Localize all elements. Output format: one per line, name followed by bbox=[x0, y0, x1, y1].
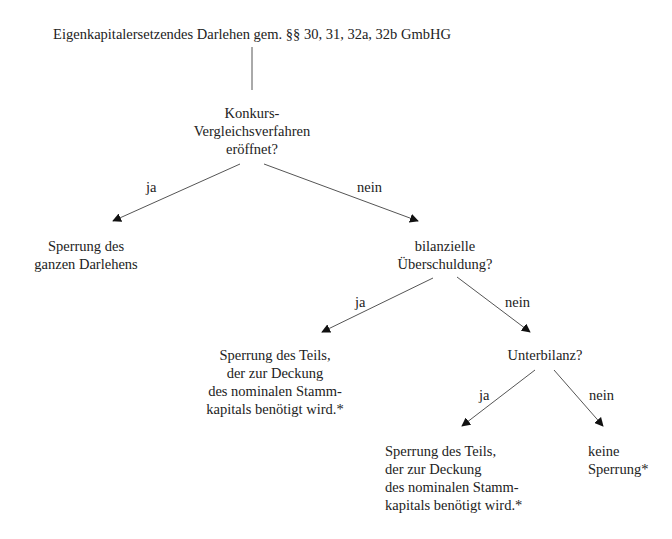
edge-label-ja: ja bbox=[146, 178, 156, 196]
question-unterbilanz: Unterbilanz? bbox=[508, 346, 583, 364]
result-sperrung-teil-1: Sperrung des Teils, der zur Deckung des … bbox=[206, 346, 343, 418]
edge-label-nein: nein bbox=[505, 293, 530, 311]
edge-label-nein: nein bbox=[589, 386, 614, 404]
root-node: Eigenkapitalersetzendes Darlehen gem. §§… bbox=[53, 25, 451, 43]
result-sperrung-ganz: Sperrung des ganzen Darlehens bbox=[34, 237, 137, 273]
edge-q1-r1 bbox=[113, 164, 240, 221]
root-label: Eigenkapitalersetzendes Darlehen gem. §§… bbox=[53, 26, 451, 42]
edge-q2-r2 bbox=[322, 278, 433, 332]
edge-q1-q2 bbox=[264, 164, 418, 221]
result-keine-sperrung: keine Sperrung* bbox=[588, 442, 648, 478]
edge-label-nein: nein bbox=[357, 178, 382, 196]
question-konkurs: Konkurs- Vergleichsverfahren eröffnet? bbox=[194, 104, 310, 158]
question-ueberschuldung: bilanzielle Überschuldung? bbox=[397, 237, 492, 273]
result-sperrung-teil-2: Sperrung des Teils, der zur Deckung des … bbox=[385, 442, 522, 514]
edge-label-ja: ja bbox=[479, 386, 489, 404]
edge-q3-r3 bbox=[462, 370, 535, 426]
edge-label-ja: ja bbox=[355, 293, 365, 311]
